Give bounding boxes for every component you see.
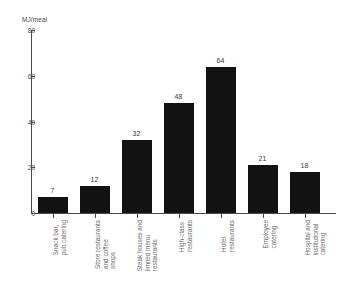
x-category-label-text: Hotelrestaurants [220, 220, 235, 252]
x-category-label-line: restaurants [151, 220, 159, 271]
x-category-label-line: and coffee [101, 220, 109, 269]
x-category-label-line: Snack bar, [52, 220, 60, 255]
x-category-label-line: pub catering [59, 220, 67, 255]
bar-chart: MJ/meal 020406080 7123248642118 Snack ba… [0, 0, 343, 289]
x-category-label-line: restaurants [185, 220, 193, 252]
bar-value-label: 64 [201, 57, 241, 64]
x-category-label-line: Hotel [220, 220, 228, 252]
x-category-label-line: catering [319, 220, 327, 256]
bar-value-label: 18 [285, 162, 325, 169]
x-category-label-text: Store restaurantsand coffeeshops [94, 220, 117, 269]
x-category-label-line: institutional [311, 220, 319, 256]
x-category-label-text: Steak houses andlimited menurestaurants [136, 220, 159, 271]
x-category-label: Snack bar,pub catering [52, 185, 67, 220]
x-category-label-line: High-class [178, 220, 186, 252]
y-tick-label: 80 [9, 27, 35, 34]
x-category-label-text: Hospital andinstitutionalcatering [304, 220, 327, 256]
x-category-label-line: Employee [262, 220, 270, 248]
x-category-label: High-classrestaurants [178, 188, 193, 220]
x-category-label-text: High-classrestaurants [178, 220, 193, 252]
y-tick-label: 0 [9, 210, 35, 217]
x-category-label: Store restaurantsand coffeeshops [94, 171, 117, 220]
x-category-label: Steak houses andlimited menurestaurants [136, 169, 159, 220]
bar-value-label: 32 [117, 130, 157, 137]
bar-value-label: 21 [243, 155, 283, 162]
x-category-label-text: Employeecatering [262, 220, 277, 248]
y-tick-label: 40 [9, 118, 35, 125]
y-axis-unit-label: MJ/meal [22, 16, 47, 23]
bar-value-label: 48 [159, 93, 199, 100]
x-category-label: Hotelrestaurants [220, 188, 235, 220]
x-category-label-line: catering [269, 220, 277, 248]
x-category-label-text: Snack bar,pub catering [52, 220, 67, 255]
x-category-label-line: Steak houses and [136, 220, 144, 271]
x-category-label: Employeecatering [262, 192, 277, 220]
x-category-label-line: Hospital and [304, 220, 312, 256]
x-category-label-line: shops [109, 220, 117, 269]
x-category-label-line: Store restaurants [94, 220, 102, 269]
x-category-label: Hospital andinstitutionalcatering [304, 184, 327, 220]
x-category-label-line: limited menu [143, 220, 151, 271]
x-category-label-line: restaurants [227, 220, 235, 252]
y-tick-label: 20 [9, 164, 35, 171]
y-tick-label: 60 [9, 72, 35, 79]
